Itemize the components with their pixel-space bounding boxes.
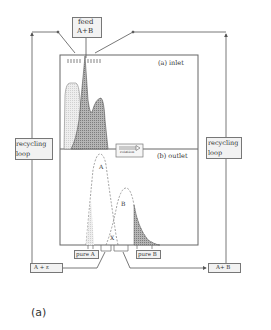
- recycling-left-line1: recycling: [16, 141, 46, 148]
- recycling-right-line1: recycling: [208, 140, 238, 147]
- return-left-label: A + ε: [34, 265, 49, 271]
- return-right-label: A+ B: [216, 265, 230, 271]
- feed-label: feed: [78, 19, 93, 26]
- rotation-label: rotation: [120, 151, 134, 155]
- overlap-x-label: X: [110, 235, 114, 241]
- recycling-left-line2: loop: [16, 151, 30, 158]
- pure-b-label: pure B: [138, 252, 157, 258]
- inlet-label: (a) inlet: [158, 60, 184, 67]
- recycling-right-line2: loop: [208, 150, 222, 157]
- pure-a-label: pure A: [76, 252, 95, 258]
- outlet-label: (b) outlet: [157, 153, 188, 160]
- feed-components: A+B: [77, 28, 93, 35]
- figure-caption: (a): [31, 306, 46, 319]
- peak-a-label: A: [99, 164, 103, 170]
- smb-process-diagram: [0, 0, 271, 330]
- peak-b-label: B: [121, 201, 125, 207]
